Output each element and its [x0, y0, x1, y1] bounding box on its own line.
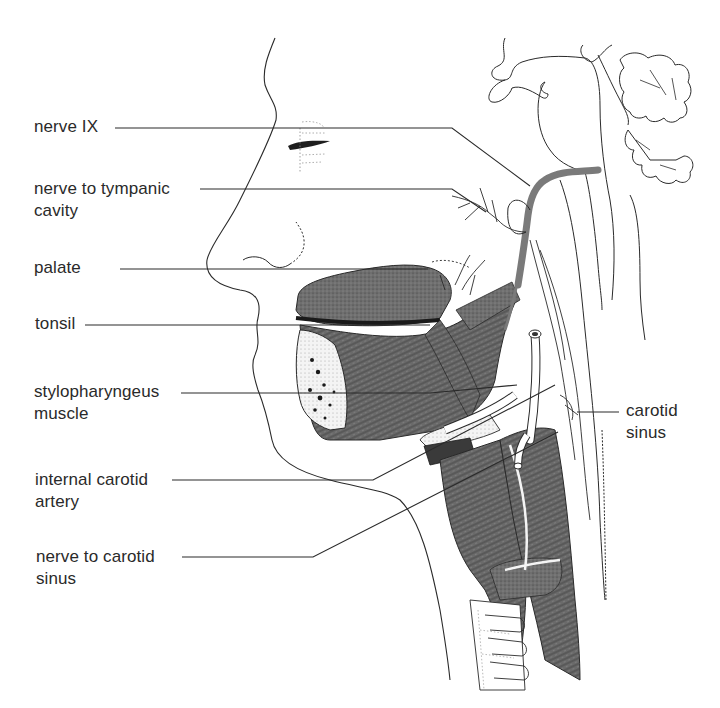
label-carotid-sinus: carotid sinus — [626, 400, 678, 444]
label-nerve-to-carotid-sinus: nerve to carotid sinus — [36, 546, 155, 590]
nerve-ix-trunk — [505, 170, 598, 330]
label-tonsil: tonsil — [35, 313, 75, 335]
label-nerve-ix: nerve IX — [34, 116, 98, 138]
label-nerve-to-tympanic-cavity: nerve to tympanic cavity — [34, 178, 170, 222]
label-stylopharyngeus-muscle: stylopharyngeus muscle — [34, 381, 159, 425]
label-palate: palate — [34, 257, 81, 279]
eye-icon — [288, 122, 330, 172]
leader-nerve-to-tympanic-cavity — [200, 189, 486, 212]
tongue — [296, 265, 451, 326]
anatomy-illustration — [0, 0, 720, 708]
leader-nerve-ix — [115, 128, 530, 186]
cerebellum-outline — [620, 53, 693, 184]
label-internal-carotid-artery: internal carotid artery — [35, 469, 148, 513]
larynx-trachea — [420, 415, 580, 690]
